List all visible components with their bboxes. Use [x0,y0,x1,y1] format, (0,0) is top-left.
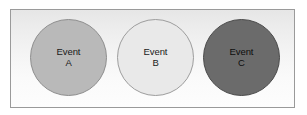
event-circle-a-title: Event [57,47,81,57]
event-circle-c-title: Event [230,47,254,57]
event-circle-c-letter: C [238,58,245,68]
diagram-frame: Event A Event B Event C [10,9,295,108]
event-circle-a-letter: A [65,58,71,68]
event-circle-a[interactable]: Event A [30,19,107,96]
event-circle-b-title: Event [144,47,168,57]
event-circle-c[interactable]: Event C [203,19,280,96]
diagram-root: Event A Event B Event C [0,0,307,115]
event-circle-b-letter: B [152,58,158,68]
event-circle-b[interactable]: Event B [117,19,194,96]
